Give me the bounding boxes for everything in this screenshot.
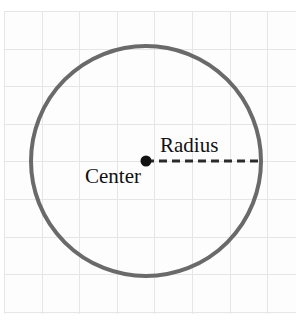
radius-label: Radius <box>160 135 218 156</box>
center-label: Center <box>85 166 141 187</box>
circle-diagram-canvas: Radius Center <box>0 0 302 324</box>
center-dot <box>141 156 152 167</box>
circle-figure <box>0 0 302 324</box>
